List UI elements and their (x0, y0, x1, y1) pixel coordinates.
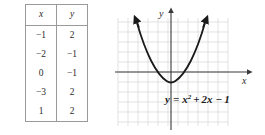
y-axis-label: y (158, 8, 164, 19)
equation-plus: + (193, 93, 199, 105)
cell-y: 2 (57, 102, 88, 121)
table-header-row: x y (26, 5, 87, 26)
curve-arrowhead-right (203, 22, 205, 28)
cell-x: −3 (26, 83, 57, 102)
cell-y: −1 (57, 64, 88, 83)
table-row: 1 2 (26, 102, 87, 121)
parabola-graph: y x y=x2+2x−1 (112, 0, 265, 135)
curve-arrowhead-left (137, 22, 139, 28)
equation-minus: − (215, 93, 222, 105)
cell-y: −1 (57, 45, 88, 64)
xy-value-table: x y −1 2 −2 −1 0 −1 −3 2 (25, 4, 88, 122)
cell-y: 2 (57, 83, 88, 102)
svg-text:y=x2+2x−1: y=x2+2x−1 (163, 93, 230, 105)
cell-x: −2 (26, 45, 57, 64)
figure-container: x y −1 2 −2 −1 0 −1 −3 2 (0, 0, 265, 135)
equation-term1-exponent: 2 (187, 93, 192, 101)
equation-equals: = (173, 93, 179, 105)
equation-lhs: y (163, 93, 170, 105)
table-row: 0 −1 (26, 64, 87, 83)
column-header-y: y (57, 5, 88, 26)
equation-label: y=x2+2x−1 (163, 93, 230, 105)
x-axis-label: x (241, 75, 247, 86)
equation-term2: 2x (200, 93, 213, 105)
cell-y: 2 (57, 26, 88, 46)
equation-term3: 1 (224, 93, 230, 105)
cell-x: 1 (26, 102, 57, 121)
cell-x: 0 (26, 64, 57, 83)
cell-x: −1 (26, 26, 57, 46)
table-row: −2 −1 (26, 45, 87, 64)
table-row: −3 2 (26, 83, 87, 102)
column-header-x: x (26, 5, 57, 26)
table-row: −1 2 (26, 26, 87, 46)
